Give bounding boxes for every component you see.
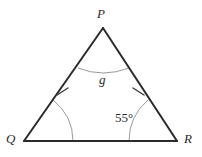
vertex-label-r: R — [184, 132, 192, 145]
triangle-side-pq — [24, 28, 103, 141]
angle-arc-q — [53, 100, 73, 141]
vertex-label-p: P — [97, 7, 105, 20]
vertex-label-q: Q — [6, 132, 15, 145]
angle-label-p: g — [99, 73, 106, 86]
geometry-figure: P Q R g 55° — [0, 0, 202, 157]
angle-label-r: 55° — [115, 111, 133, 124]
